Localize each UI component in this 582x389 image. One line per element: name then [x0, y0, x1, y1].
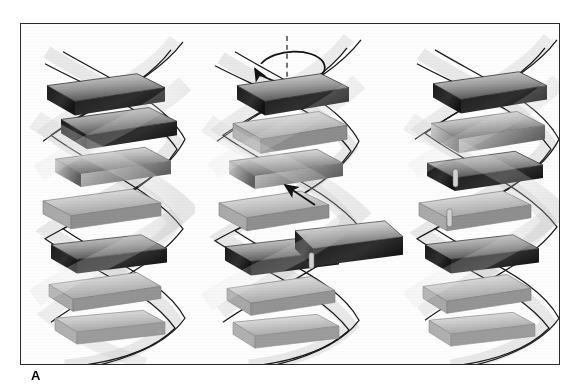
plate-inner	[21, 24, 559, 364]
helix-ribbon-front	[207, 82, 359, 303]
panel-restacked-helix	[403, 24, 560, 364]
base-pair-block	[419, 191, 531, 231]
panel-extruded-base-pair	[189, 24, 404, 364]
figure-root: A	[0, 0, 582, 389]
figure-plate	[20, 23, 560, 365]
extruded-base-pair-drawing	[189, 24, 404, 364]
figure-caption-letter: A	[31, 367, 41, 385]
base-pair-block	[43, 189, 161, 229]
restacked-helix-drawing	[403, 24, 560, 364]
intact-helix-drawing	[25, 24, 195, 364]
panel-intact-helix	[25, 24, 195, 364]
base-pair-block	[219, 191, 329, 231]
